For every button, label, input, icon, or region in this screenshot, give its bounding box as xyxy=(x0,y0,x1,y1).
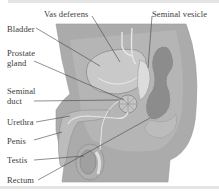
label-seminal-duct-line1: Seminal xyxy=(7,86,36,96)
label-seminal-duct-line2: duct xyxy=(7,96,22,106)
label-rectum: Rectum xyxy=(7,175,34,185)
label-seminal-vesicle: Seminal vesicle xyxy=(152,9,207,19)
label-prostate-line1: Prostate xyxy=(7,48,35,58)
diagram-frame: Vas deferens Seminal vesicle Bladder Pro… xyxy=(0,0,219,192)
label-prostate-line2: gland xyxy=(7,58,26,68)
label-penis: Penis xyxy=(7,136,26,146)
testis-shape xyxy=(80,150,96,174)
frame-bottom-border xyxy=(0,186,219,189)
label-vas-deferens: Vas deferens xyxy=(44,9,88,19)
label-testis: Testis xyxy=(7,155,27,165)
label-bladder: Bladder xyxy=(7,24,35,34)
label-urethra: Urethra xyxy=(7,117,34,127)
prostate-detail xyxy=(120,96,136,112)
